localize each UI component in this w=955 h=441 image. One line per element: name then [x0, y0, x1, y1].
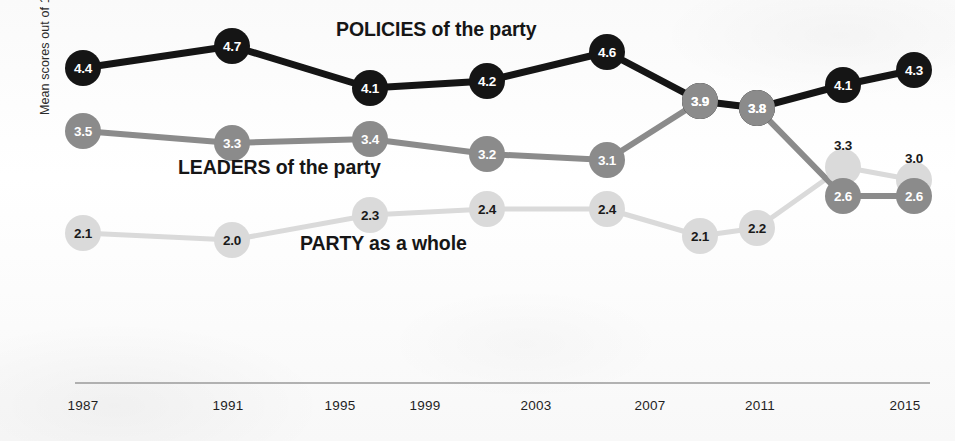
data-point-marker — [352, 70, 388, 106]
plot-canvas — [0, 0, 955, 441]
data-point-marker — [469, 63, 505, 99]
data-point-marker — [589, 34, 625, 70]
x-tick-label: 2003 — [521, 398, 552, 413]
data-point-marker — [65, 50, 101, 86]
x-tick-label: 2007 — [635, 398, 666, 413]
annotation-party: PARTY as a whole — [300, 232, 467, 255]
data-point-marker — [65, 113, 101, 149]
data-point-marker — [589, 191, 625, 227]
data-point-marker — [469, 191, 505, 227]
annotation-policies-keyword: POLICIES — [336, 18, 426, 40]
annotation-party-keyword: PARTY — [300, 232, 364, 254]
y-axis-title: Mean scores out of 10 — [38, 0, 52, 115]
data-point-marker — [739, 210, 775, 246]
data-point-marker — [469, 136, 505, 172]
data-point-marker — [65, 215, 101, 251]
data-point-marker — [352, 197, 388, 233]
annotation-policies-rest: of the party — [426, 18, 536, 40]
annotation-policies: POLICIES of the party — [336, 18, 537, 41]
data-point-marker — [214, 222, 250, 258]
x-tick-label: 2015 — [890, 398, 921, 413]
data-point-marker — [825, 178, 861, 214]
x-tick-label: 1987 — [68, 398, 99, 413]
x-tick-label: 1991 — [213, 398, 244, 413]
data-point-marker — [214, 28, 250, 64]
annotation-leaders: LEADERS of the party — [178, 156, 381, 179]
data-point-marker — [589, 142, 625, 178]
x-tick-label: 1999 — [410, 398, 441, 413]
data-point-marker — [352, 121, 388, 157]
x-tick-label: 1995 — [325, 398, 356, 413]
data-point-marker — [682, 83, 718, 119]
data-point-marker — [825, 67, 861, 103]
series-markers-policies — [65, 28, 932, 126]
annotation-leaders-keyword: LEADERS — [178, 156, 270, 178]
chart-root: Mean scores out of 10 POLICIES of the pa… — [0, 0, 955, 441]
data-point-marker — [682, 218, 718, 254]
x-tick-label: 2011 — [745, 398, 775, 413]
annotation-party-rest: as a whole — [364, 232, 467, 254]
data-point-marker — [896, 52, 932, 88]
data-point-marker — [739, 90, 775, 126]
data-point-marker — [896, 178, 932, 214]
annotation-leaders-rest: of the party — [270, 156, 380, 178]
